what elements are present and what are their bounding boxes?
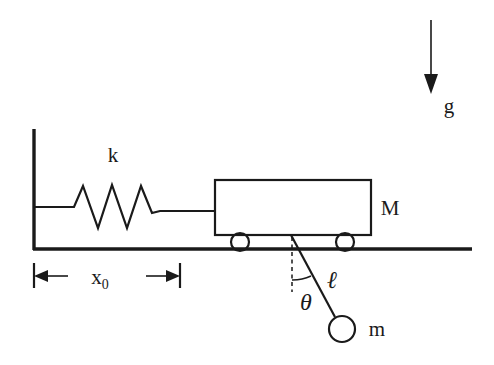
spring (34, 185, 215, 228)
displacement-subscript: 0 (102, 277, 109, 292)
spring-constant-label: k (108, 143, 119, 167)
displacement-label: x0 (91, 265, 109, 292)
pendulum-bob (329, 316, 355, 342)
cart-body (215, 180, 371, 235)
x0-arrow-left-head (34, 270, 48, 282)
displacement-base: x (91, 265, 102, 289)
angle-label: θ (300, 289, 312, 315)
angle-arc (292, 276, 311, 280)
bob-mass-label: m (369, 317, 385, 341)
physics-diagram: k M m ℓ θ g x0 (0, 0, 494, 365)
x0-arrow-right-head (166, 270, 180, 282)
gravity-label: g (444, 94, 455, 118)
diagram-canvas: k M m ℓ θ g x0 (0, 0, 494, 365)
pendulum-length-label: ℓ (327, 267, 337, 293)
cart-mass-label: M (381, 196, 400, 220)
gravity-arrow-head (424, 74, 438, 94)
